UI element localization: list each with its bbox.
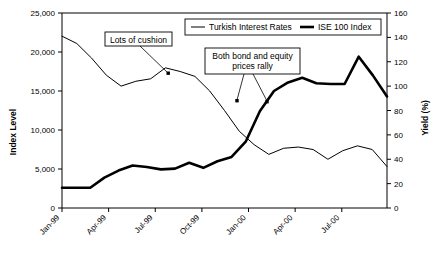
left-tick-label: 0 [51,204,56,213]
left-axis-title: Index Level [8,109,18,155]
left-tick-label: 5,000 [35,165,56,174]
left-tick-label: 20,000 [31,48,56,57]
right-tick-label: 120 [394,58,408,67]
annotation-text-lots-of-cushion: Lots of cushion [110,35,167,45]
annotation-text-bond-equity-rally-line1: Both bond and equity [212,51,293,61]
right-tick-label: 140 [394,33,408,42]
annotation-text-bond-equity-rally-line2: prices rally [232,61,273,71]
chart-background [0,0,437,259]
dual-axis-line-chart: 05,00010,00015,00020,00025,000 020406080… [0,0,437,259]
legend-label-ise-100-index: ISE 100 Index [318,22,372,32]
right-tick-label: 0 [394,204,399,213]
right-tick-label: 100 [394,82,408,91]
left-tick-label: 25,000 [31,9,56,18]
chart-container: 05,00010,00015,00020,00025,000 020406080… [0,0,437,259]
legend: Turkish Interest Rates ISE 100 Index [185,19,381,35]
legend-label-turkish-interest-rates: Turkish Interest Rates [209,22,292,32]
right-tick-label: 40 [394,155,403,164]
right-tick-label: 60 [394,131,403,140]
right-axis-title: Yield (%) [420,100,430,136]
right-tick-label: 20 [394,180,403,189]
annotation-arrowhead-bond [235,99,238,102]
right-tick-label: 160 [394,9,408,18]
right-tick-label: 80 [394,107,403,116]
left-tick-label: 10,000 [31,126,56,135]
left-tick-label: 15,000 [31,87,56,96]
annotation-arrowhead-lots-of-cushion [167,72,170,75]
annotation-arrowhead-equity [265,100,268,103]
